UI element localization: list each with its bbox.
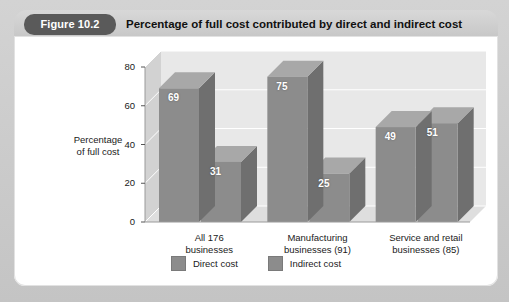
x-axis-label-line: All 176 bbox=[155, 232, 263, 244]
y-tick-label: 20 bbox=[113, 177, 135, 188]
bar-value-label: 49 bbox=[385, 131, 396, 142]
bar-value-label: 75 bbox=[276, 81, 287, 92]
y-tick-label: 60 bbox=[113, 100, 135, 111]
legend-label-indirect-cost: Indirect cost bbox=[290, 258, 341, 269]
x-axis-label-line: businesses (91) bbox=[264, 244, 372, 256]
bar-value-label: 69 bbox=[168, 92, 179, 103]
figure-panel: Percentage of full cost 020406080 All 17… bbox=[14, 36, 498, 286]
bar-value-label: 25 bbox=[318, 178, 329, 189]
chart-legend: Direct cost Indirect cost bbox=[14, 256, 498, 271]
x-axis-label-line: businesses (85) bbox=[372, 244, 480, 256]
figure-root: Figure 10.2 Percentage of full cost cont… bbox=[0, 0, 509, 302]
y-tick-label: 80 bbox=[113, 61, 135, 72]
legend-item-direct-cost: Direct cost bbox=[171, 256, 238, 271]
figure-title: Percentage of full cost contributed by d… bbox=[126, 14, 462, 35]
x-axis-label: Manufacturingbusinesses (91) bbox=[264, 232, 372, 256]
x-axis-label-line: businesses bbox=[155, 244, 263, 256]
legend-item-indirect-cost: Indirect cost bbox=[268, 256, 341, 271]
legend-swatch-direct-cost bbox=[171, 256, 186, 271]
y-tick-label: 0 bbox=[113, 216, 135, 227]
x-axis-label: All 176businesses bbox=[155, 232, 263, 256]
bar-chart: Percentage of full cost 020406080 All 17… bbox=[14, 36, 498, 286]
x-axis-label-line: Manufacturing bbox=[264, 232, 372, 244]
bar-value-label: 51 bbox=[427, 127, 438, 138]
y-tick-label: 40 bbox=[113, 139, 135, 150]
figure-number-badge: Figure 10.2 bbox=[24, 14, 116, 35]
x-axis-label-line: Service and retail bbox=[372, 232, 480, 244]
legend-swatch-indirect-cost bbox=[268, 256, 283, 271]
bar-value-label: 31 bbox=[210, 166, 221, 177]
figure-number-label: Figure 10.2 bbox=[24, 14, 116, 35]
legend-label-direct-cost: Direct cost bbox=[193, 258, 238, 269]
x-axis-label: Service and retailbusinesses (85) bbox=[372, 232, 480, 256]
